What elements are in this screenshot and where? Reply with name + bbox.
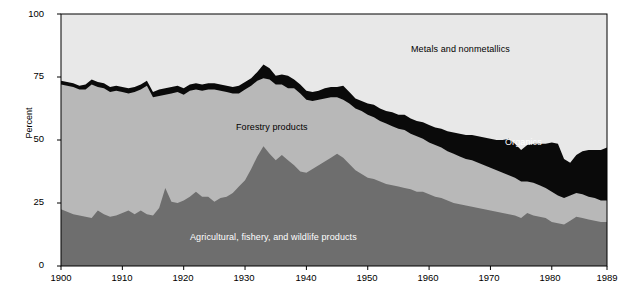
y-tick-25: 25 xyxy=(0,196,44,207)
area-agricultural-fishery-wildlife xyxy=(61,146,607,266)
y-tick-100: 100 xyxy=(0,8,44,19)
label-agricultural-fishery-wildlife: Agricultural, fishery, and wildlife prod… xyxy=(190,232,357,242)
y-tick-75: 75 xyxy=(0,70,44,81)
x-tick-1980: 1980 xyxy=(520,272,580,283)
x-tick-1989: 1989 xyxy=(577,272,637,283)
x-tick-1900: 1900 xyxy=(31,272,91,283)
y-tick-0: 0 xyxy=(0,259,44,270)
x-tick-1920: 1920 xyxy=(153,272,213,283)
x-tick-1970: 1970 xyxy=(459,272,519,283)
y-tick-marks xyxy=(57,14,61,266)
y-axis-title: Percent xyxy=(24,93,34,153)
x-tick-1960: 1960 xyxy=(398,272,458,283)
x-tick-1910: 1910 xyxy=(92,272,152,283)
label-organics: Organics xyxy=(505,137,542,147)
label-metals-and-nonmetallics: Metals and nonmetallics xyxy=(411,44,510,54)
x-tick-1930: 1930 xyxy=(214,272,274,283)
label-forestry-products: Forestry products xyxy=(236,122,308,132)
chart-figure: Percent 100 75 50 25 0 1900 1910 1920 19… xyxy=(0,0,640,305)
plot-area xyxy=(0,0,640,305)
x-tick-1950: 1950 xyxy=(337,272,397,283)
x-tick-1940: 1940 xyxy=(276,272,336,283)
x-tick-marks xyxy=(61,266,607,270)
y-tick-50: 50 xyxy=(0,133,44,144)
